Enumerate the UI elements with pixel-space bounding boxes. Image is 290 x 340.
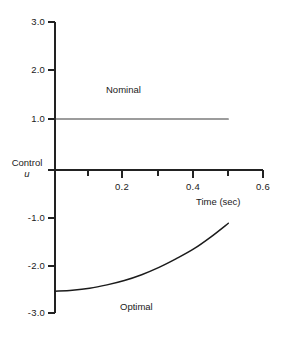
x-axis-label-0-6: 0.6 [245,181,281,192]
y-axis-title: Control u [6,157,48,179]
x-axis-title: Time (sec) [196,196,241,207]
y-axis-label-3-0: 3.0 [12,16,45,27]
chart-figure: 3.0 2.0 1.0 -1.0 -2.0 -3.0 Control u 0.2… [0,0,290,340]
x-axis-label-0-2: 0.2 [104,181,140,192]
optimal-series-label: Optimal [120,301,153,312]
nominal-series-label: Nominal [106,84,141,95]
y-axis-label-1-0: 1.0 [12,113,45,124]
y-axis-title-symbol: u [6,168,48,179]
optimal-series-line [55,223,228,291]
x-axis-label-0-4: 0.4 [175,181,211,192]
y-axis-label-minus-3-0: -3.0 [12,307,45,318]
y-axis-label-minus-1-0: -1.0 [12,212,45,223]
y-axis-label-2-0: 2.0 [12,64,45,75]
y-axis-title-word: Control [12,157,43,168]
y-axis-label-minus-2-0: -2.0 [12,260,45,271]
